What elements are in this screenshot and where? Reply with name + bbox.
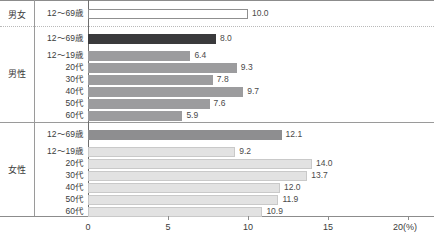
bar-row: 60代5.9 <box>34 110 434 123</box>
x-axis-tick <box>168 216 169 220</box>
bar-value-label: 7.8 <box>217 73 229 86</box>
bar <box>88 34 216 44</box>
x-axis-tick-label: 5 <box>165 222 170 232</box>
x-axis-tick-label: 0 <box>85 222 90 232</box>
bar-value-label: 11.9 <box>282 193 298 206</box>
bar <box>88 195 278 205</box>
bar-row-label: 12～69歳 <box>34 7 84 20</box>
bar-value-label: 9.3 <box>241 61 253 74</box>
bar <box>88 99 210 109</box>
bar <box>88 130 282 140</box>
bar <box>88 183 280 193</box>
x-axis-tick-label: 20(%) <box>393 222 417 232</box>
bar-value-label: 13.7 <box>311 169 328 182</box>
bar <box>88 171 307 181</box>
bar-value-label: 7.6 <box>214 97 226 110</box>
chart-top-border <box>0 0 434 1</box>
x-axis-tick <box>328 216 329 220</box>
group-label-female: 女性 <box>0 163 34 176</box>
x-axis-tick-label: 10 <box>243 222 253 232</box>
bar-value-label: 12.1 <box>286 128 303 141</box>
bar-row-label: 12～69歳 <box>34 128 84 141</box>
bar <box>88 207 262 217</box>
bar-row: 60代10.9 <box>34 206 434 219</box>
bar <box>88 9 248 19</box>
bar-value-label: 6.4 <box>194 49 206 62</box>
bar-value-label: 10.0 <box>252 7 269 20</box>
group-separator-both <box>0 26 434 27</box>
bar-value-label: 9.2 <box>239 145 251 158</box>
bar-value-label: 5.9 <box>186 109 198 122</box>
bar-row-label: 12～69歳 <box>34 32 84 45</box>
bar-value-label: 9.7 <box>247 85 259 98</box>
x-axis-tick-label: 15 <box>323 222 333 232</box>
bar-row-label: 60代 <box>34 205 84 218</box>
bar-row-label: 60代 <box>34 109 84 122</box>
bar <box>88 159 312 169</box>
x-axis-tick <box>248 216 249 220</box>
bar-row: 12～69歳12.1 <box>34 129 434 142</box>
bar <box>88 75 213 85</box>
horizontal-bar-chart: 男女 男性 女性 12～69歳10.012～69歳8.012～19歳6.420代… <box>0 0 434 239</box>
bar-value-label: 8.0 <box>220 32 232 45</box>
bar <box>88 147 235 157</box>
group-label-male: 男性 <box>0 67 34 80</box>
group-label-both: 男女 <box>0 8 34 21</box>
bar-row: 12～69歳10.0 <box>34 8 434 21</box>
bar <box>88 87 243 97</box>
bar <box>88 111 182 121</box>
bar <box>88 51 190 61</box>
bar <box>88 63 237 73</box>
x-axis-tick <box>408 216 409 220</box>
bar-value-label: 10.9 <box>266 205 283 218</box>
bar-row: 12～69歳8.0 <box>34 33 434 46</box>
